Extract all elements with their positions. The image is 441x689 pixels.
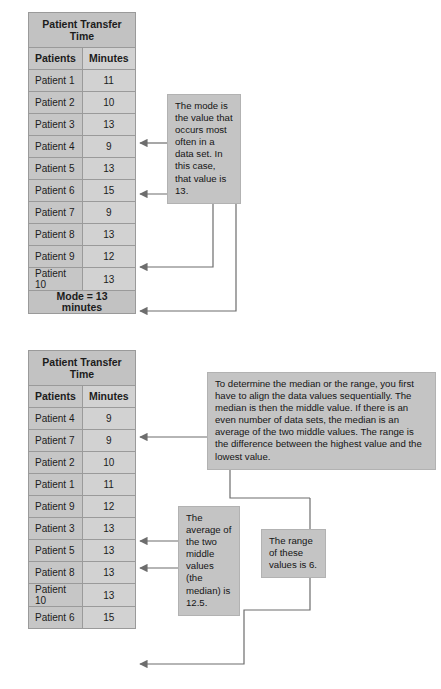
cell-patient: Patient 4 <box>29 408 83 430</box>
table-row: Patient 1 11 <box>29 70 136 92</box>
cell-patient: Patient 2 <box>29 452 83 474</box>
cell-patient: Patient 8 <box>29 224 83 246</box>
cell-minutes: 15 <box>82 180 136 202</box>
table-row: Patient 8 13 <box>29 224 136 246</box>
cell-minutes: 13 <box>82 114 136 136</box>
cell-patient: Patient 6 <box>29 180 83 202</box>
table-title: Patient Transfer Time <box>29 13 136 48</box>
table-row: Patient 10 13 <box>29 268 136 291</box>
table-footer-row: Mode = 13 minutes <box>29 291 136 314</box>
cell-minutes: 9 <box>82 202 136 224</box>
cell-patient: Patient 10 <box>29 584 83 607</box>
table-patient-transfer-time-original: Patient Transfer Time Patients Minutes P… <box>28 12 136 314</box>
table-row: Patient 6 15 <box>29 607 136 629</box>
column-header-minutes: Minutes <box>82 386 136 408</box>
cell-minutes: 10 <box>82 452 136 474</box>
cell-minutes: 13 <box>82 224 136 246</box>
cell-patient: Patient 5 <box>29 158 83 180</box>
table-row: Patient 10 13 <box>29 584 136 607</box>
table-title: Patient Transfer Time <box>29 351 136 386</box>
cell-patient: Patient 7 <box>29 430 83 452</box>
table-header-row: Patients Minutes <box>29 48 136 70</box>
cell-patient: Patient 10 <box>29 268 83 291</box>
table-row: Patient 7 9 <box>29 202 136 224</box>
table-row: Patient 7 9 <box>29 430 136 452</box>
cell-patient: Patient 3 <box>29 518 83 540</box>
cell-minutes: 12 <box>82 496 136 518</box>
cell-minutes: 9 <box>82 408 136 430</box>
table-row: Patient 1 11 <box>29 474 136 496</box>
table-row: Patient 2 10 <box>29 92 136 114</box>
callout-average-median-value: The average of the two middle values (th… <box>178 506 240 616</box>
cell-patient: Patient 9 <box>29 496 83 518</box>
table-header-row: Patients Minutes <box>29 386 136 408</box>
cell-patient: Patient 4 <box>29 136 83 158</box>
cell-minutes: 13 <box>82 268 136 291</box>
cell-minutes: 10 <box>82 92 136 114</box>
table-row: Patient 2 10 <box>29 452 136 474</box>
table-title-row: Patient Transfer Time <box>29 13 136 48</box>
table-patient-transfer-time-sorted: Patient Transfer Time Patients Minutes P… <box>28 350 136 629</box>
table-row: Patient 4 9 <box>29 408 136 430</box>
cell-minutes: 15 <box>82 607 136 629</box>
table-title-row: Patient Transfer Time <box>29 351 136 386</box>
table-row: Patient 4 9 <box>29 136 136 158</box>
cell-patient: Patient 1 <box>29 70 83 92</box>
table-row: Patient 3 13 <box>29 518 136 540</box>
cell-patient: Patient 6 <box>29 607 83 629</box>
cell-patient: Patient 9 <box>29 246 83 268</box>
cell-minutes: 13 <box>82 584 136 607</box>
table-row: Patient 9 12 <box>29 496 136 518</box>
cell-minutes: 9 <box>82 430 136 452</box>
cell-minutes: 13 <box>82 562 136 584</box>
cell-patient: Patient 8 <box>29 562 83 584</box>
callout-mode-explanation: The mode is the value that occurs most o… <box>167 94 241 204</box>
cell-minutes: 13 <box>82 540 136 562</box>
diagram-canvas: Patient Transfer Time Patients Minutes P… <box>0 0 441 689</box>
callout-median-range-explanation: To determine the median or the range, yo… <box>207 372 436 470</box>
column-header-patients: Patients <box>29 386 83 408</box>
table-row: Patient 8 13 <box>29 562 136 584</box>
cell-patient: Patient 1 <box>29 474 83 496</box>
table-row: Patient 9 12 <box>29 246 136 268</box>
cell-patient: Patient 5 <box>29 540 83 562</box>
cell-minutes: 11 <box>82 474 136 496</box>
mode-result: Mode = 13 minutes <box>29 291 136 314</box>
cell-minutes: 11 <box>82 70 136 92</box>
cell-patient: Patient 2 <box>29 92 83 114</box>
column-header-patients: Patients <box>29 48 83 70</box>
cell-minutes: 13 <box>82 518 136 540</box>
cell-patient: Patient 7 <box>29 202 83 224</box>
column-header-minutes: Minutes <box>82 48 136 70</box>
table-row: Patient 3 13 <box>29 114 136 136</box>
table-row: Patient 6 15 <box>29 180 136 202</box>
cell-minutes: 12 <box>82 246 136 268</box>
cell-minutes: 9 <box>82 136 136 158</box>
cell-minutes: 13 <box>82 158 136 180</box>
cell-patient: Patient 3 <box>29 114 83 136</box>
table-row: Patient 5 13 <box>29 540 136 562</box>
callout-range-value: The range of these values is 6. <box>261 529 326 578</box>
table-row: Patient 5 13 <box>29 158 136 180</box>
